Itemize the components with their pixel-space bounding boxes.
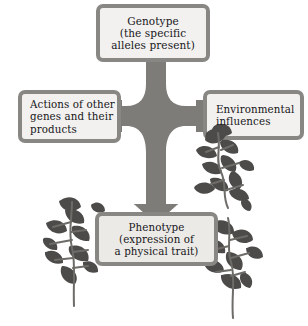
diagram-canvas: Genotype (the specific alleles present) …: [0, 0, 308, 326]
right-fillet: [166, 126, 186, 152]
box-actions-line-2: genes and their: [30, 110, 117, 122]
box-actions-of-other-genes[interactable]: Actions of other genes and their product…: [18, 90, 121, 143]
box-environmental-influences[interactable]: Environmental influences: [203, 90, 304, 140]
box-genotype-line-3: alleles present): [103, 39, 203, 51]
trunk-bar: [146, 56, 166, 208]
box-phenotype-line-1: Phenotype: [102, 221, 211, 233]
box-genotype-line-2: (the specific: [103, 27, 203, 39]
box-phenotype-line-2: (expression of: [102, 233, 211, 245]
right-fillet-top: [166, 84, 186, 106]
box-phenotype[interactable]: Phenotype (expression of a physical trai…: [95, 212, 218, 266]
left-fillet: [126, 126, 146, 152]
box-genotype[interactable]: Genotype (the specific alleles present): [96, 4, 210, 62]
box-actions-line-1: Actions of other: [30, 98, 117, 110]
box-environment-line-1: Environmental: [216, 103, 300, 115]
box-actions-line-3: products: [30, 123, 117, 135]
box-environment-line-2: influences: [216, 115, 300, 127]
box-phenotype-line-3: a physical trait): [102, 245, 211, 257]
box-genotype-line-1: Genotype: [103, 15, 203, 27]
left-fillet-top: [126, 84, 146, 106]
